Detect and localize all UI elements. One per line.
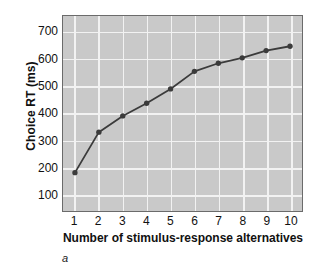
y-tick-label: 300: [28, 134, 58, 148]
x-axis-title: Number of stimulus-response alternatives: [52, 231, 314, 245]
x-tick-label: 8: [239, 214, 246, 228]
data-point-marker: [216, 61, 221, 66]
x-tick-label: 4: [143, 214, 150, 228]
y-tick-label: 400: [28, 106, 58, 120]
data-point-marker: [192, 69, 197, 74]
x-tick-label: 9: [264, 214, 271, 228]
data-line: [75, 46, 290, 172]
series-line-choice-rt: [63, 16, 302, 211]
x-tick-label: 1: [71, 214, 78, 228]
figure-panel: Choice RT (ms) 100200300400500600700 123…: [0, 0, 322, 276]
panel-caption: a: [62, 252, 68, 264]
y-tick-label: 500: [28, 79, 58, 93]
data-point-marker: [287, 44, 292, 49]
x-tick-label: 2: [95, 214, 102, 228]
data-point-marker: [240, 55, 245, 60]
x-tick-label: 10: [284, 214, 297, 228]
data-point-marker: [96, 129, 101, 134]
y-tick-label: 200: [28, 161, 58, 175]
data-point-marker: [168, 86, 173, 91]
x-tick-label: 3: [119, 214, 126, 228]
data-point-marker: [144, 101, 149, 106]
x-tick-label: 5: [167, 214, 174, 228]
x-tick-label: 6: [191, 214, 198, 228]
plot-area: [62, 15, 303, 212]
x-tick-label: 7: [215, 214, 222, 228]
data-point-marker: [120, 113, 125, 118]
y-tick-label: 100: [28, 188, 58, 202]
y-tick-label: 700: [28, 24, 58, 38]
data-point-marker: [72, 170, 77, 175]
y-tick-label: 600: [28, 52, 58, 66]
x-axis-tick-labels: 12345678910: [62, 214, 303, 230]
data-point-marker: [263, 48, 268, 53]
